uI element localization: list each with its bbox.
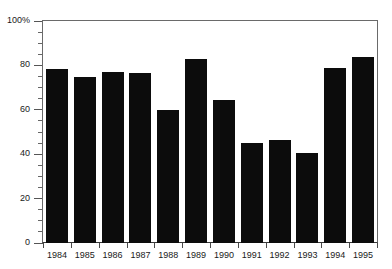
x-axis-tick (182, 243, 183, 248)
x-axis-tick-label: 1995 (346, 250, 380, 261)
y-axis-tick-label: 40 (20, 149, 30, 158)
x-axis-tick (43, 243, 44, 248)
x-axis-tick (266, 243, 267, 248)
bar (324, 68, 346, 243)
y-axis-tick-label: 60 (20, 105, 30, 114)
x-axis-tick (349, 243, 350, 248)
x-axis-label-group: 1984198519861987198819891990199119921993… (43, 250, 379, 264)
bar-chart-figure: 020406080100% 19841985198619871988198919… (0, 0, 392, 269)
x-axis-tick (294, 243, 295, 248)
x-axis-tick (99, 243, 100, 248)
bar (352, 57, 374, 243)
x-axis-tick (127, 243, 128, 248)
y-axis-tick-label: 80 (20, 60, 30, 69)
bar (46, 69, 68, 243)
bar (185, 59, 207, 243)
bar (213, 100, 235, 243)
y-axis-tick-label: 100% (7, 16, 30, 25)
bar (102, 72, 124, 243)
bar (241, 143, 263, 243)
bar (74, 77, 96, 244)
bar (157, 110, 179, 243)
y-axis-tick-label: 20 (20, 194, 30, 203)
x-axis-tick-group (43, 243, 379, 249)
x-axis-tick (238, 243, 239, 248)
y-axis-tick-label: 0 (25, 238, 30, 247)
bar (296, 153, 318, 243)
x-axis-tick (210, 243, 211, 248)
x-axis-tick (71, 243, 72, 248)
x-axis-tick (154, 243, 155, 248)
bar (269, 140, 291, 243)
bar-series-group (43, 21, 377, 243)
bar (129, 73, 151, 243)
y-axis-label-group: 020406080100% (0, 0, 30, 269)
x-axis-tick (321, 243, 322, 248)
x-axis-tick (377, 243, 378, 248)
